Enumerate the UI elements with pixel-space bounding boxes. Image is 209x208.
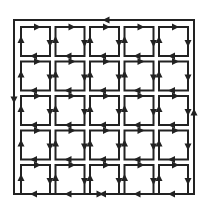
cell-bottom-arrow-icon [99,53,106,60]
cell-loop-r1c1 [56,62,85,91]
cell-right-arrow-icon [150,144,157,151]
cell-bottom-arrow-icon [134,53,141,60]
cell-bottom-arrow-icon [134,87,141,94]
cell-right-arrow-icon [150,40,157,47]
cell-right-arrow-icon [81,40,88,47]
cell-left-arrow-icon [87,105,94,112]
cell-right-arrow-icon [116,109,123,116]
cell-left-arrow-icon [121,140,128,147]
cell-loop-r4c1 [56,165,85,194]
cell-bottom-arrow-icon [168,87,175,94]
cell-loop-r2c4 [159,96,188,125]
cell-left-arrow-icon [121,105,128,112]
cell-left-arrow-icon [18,140,25,147]
cell-top-arrow-icon [69,93,76,100]
cell-right-arrow-icon [47,178,54,185]
cell-loop-r3c3 [125,131,154,160]
cell-top-arrow-icon [69,162,76,169]
cell-left-arrow-icon [156,174,163,181]
cell-bottom-arrow-icon [134,122,141,129]
cell-right-arrow-icon [81,144,88,151]
outer-top-arrow-icon [103,17,110,24]
cell-loop-r0c2 [90,27,119,56]
cell-right-arrow-icon [81,75,88,82]
cell-left-arrow-icon [18,36,25,43]
cell-left-arrow-icon [121,71,128,78]
cell-bottom-arrow-icon [99,156,106,163]
cell-bottom-arrow-icon [30,191,37,198]
cell-top-arrow-icon [138,127,145,134]
cell-left-arrow-icon [121,174,128,181]
cell-bottom-arrow-icon [168,191,175,198]
cell-loop-r2c0 [21,96,50,125]
cell-top-arrow-icon [34,162,41,169]
cell-bottom-arrow-icon [65,191,72,198]
cell-top-arrow-icon [34,24,41,31]
cell-top-arrow-icon [138,162,145,169]
cell-top-arrow-icon [103,24,110,31]
cell-loop-r0c4 [159,27,188,56]
cell-top-arrow-icon [172,162,179,169]
cell-right-arrow-icon [116,178,123,185]
cell-bottom-arrow-icon [30,122,37,129]
cell-right-arrow-icon [150,75,157,82]
cell-loop-r1c4 [159,62,188,91]
cell-left-arrow-icon [87,36,94,43]
cell-left-arrow-icon [156,36,163,43]
cell-top-arrow-icon [103,58,110,65]
cell-loop-r3c4 [159,131,188,160]
outer-right-arrow-icon [191,109,198,116]
cell-bottom-arrow-icon [30,53,37,60]
cell-bottom-arrow-icon [168,156,175,163]
cell-right-arrow-icon [47,144,54,151]
cell-bottom-arrow-icon [65,122,72,129]
cell-bottom-arrow-icon [30,156,37,163]
cell-loop-r4c0 [21,165,50,194]
cell-loop-r0c0 [21,27,50,56]
cell-right-arrow-icon [185,144,192,151]
cell-left-arrow-icon [87,140,94,147]
cell-top-arrow-icon [138,58,145,65]
cell-bottom-arrow-icon [168,53,175,60]
cell-right-arrow-icon [81,178,88,185]
cell-bottom-arrow-icon [134,191,141,198]
cell-top-arrow-icon [103,162,110,169]
cell-left-arrow-icon [156,71,163,78]
cell-top-arrow-icon [69,24,76,31]
cell-right-arrow-icon [185,109,192,116]
cell-left-arrow-icon [18,105,25,112]
cell-loop-r4c3 [125,165,154,194]
circulation-grid-diagram [0,0,209,208]
cell-loop-r3c2 [90,131,119,160]
cell-top-arrow-icon [69,58,76,65]
cell-left-arrow-icon [52,105,59,112]
cell-right-arrow-icon [150,178,157,185]
cell-bottom-arrow-icon [65,156,72,163]
cell-left-arrow-icon [52,36,59,43]
cell-left-arrow-icon [121,36,128,43]
cell-left-arrow-icon [18,71,25,78]
cell-bottom-arrow-icon [99,122,106,129]
cell-loop-r2c3 [125,96,154,125]
cell-loop-r1c2 [90,62,119,91]
cell-top-arrow-icon [138,93,145,100]
cell-top-arrow-icon [103,93,110,100]
cell-top-arrow-icon [34,93,41,100]
cell-loop-r4c2 [90,165,119,194]
cell-right-arrow-icon [81,109,88,116]
cell-right-arrow-icon [116,75,123,82]
cell-loop-r0c3 [125,27,154,56]
cell-bottom-arrow-icon [134,156,141,163]
cell-top-arrow-icon [34,58,41,65]
cell-right-arrow-icon [47,40,54,47]
cell-top-arrow-icon [172,58,179,65]
cell-loop-r1c3 [125,62,154,91]
cell-bottom-arrow-icon [65,87,72,94]
outer-left-arrow-icon [11,97,18,104]
cell-right-arrow-icon [185,178,192,185]
cell-left-arrow-icon [156,140,163,147]
cell-loop-r3c1 [56,131,85,160]
cell-left-arrow-icon [52,174,59,181]
cell-right-arrow-icon [47,75,54,82]
cell-bottom-arrow-icon [168,122,175,129]
